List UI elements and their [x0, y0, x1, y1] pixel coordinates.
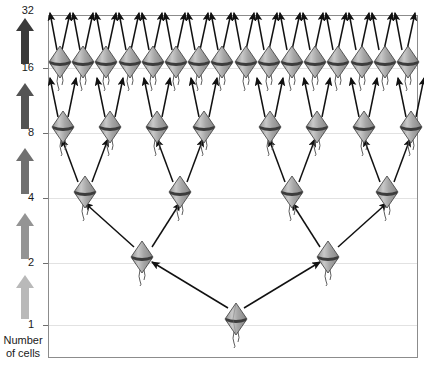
cell-gen16 [209, 45, 235, 91]
cell-gen16 [163, 45, 189, 91]
arrow-head-icon [16, 18, 34, 31]
gradient-arrow-3 [16, 148, 34, 194]
arrow-shaft [21, 31, 29, 64]
gridline-4 [49, 198, 417, 199]
tick-label-32: 32 [0, 5, 34, 16]
gradient-arrow-2 [16, 213, 34, 259]
cell-gen16 [70, 45, 96, 91]
cell-gen16 [279, 45, 305, 91]
arrow-shaft [21, 288, 29, 319]
gradient-arrow-4 [16, 83, 34, 129]
cell-gen2 [129, 240, 155, 286]
cell-gen8 [257, 110, 283, 156]
cell-gen16 [395, 45, 421, 91]
cell-gen16 [349, 45, 375, 91]
arrow-head-icon [16, 275, 34, 288]
cell-gen1 [223, 302, 249, 348]
cell-gen8 [398, 110, 424, 156]
cell-gen16 [372, 45, 398, 91]
gridline-2 [49, 263, 417, 264]
cell-division-figure: 32 16 8 4 2 1 Number of cells [0, 0, 424, 372]
arrow-head-icon [16, 213, 34, 226]
cell-gen4 [279, 175, 305, 221]
cell-gen8 [191, 110, 217, 156]
cell-gen16 [93, 45, 119, 91]
cell-gen16 [186, 45, 212, 91]
gradient-arrow-1 [16, 275, 34, 319]
cell-gen8 [351, 110, 377, 156]
arrow-head-icon [16, 83, 34, 96]
cell-gen2 [315, 240, 341, 286]
cell-gen4 [374, 175, 400, 221]
tick-label-1: 1 [0, 319, 34, 330]
cell-gen16 [47, 45, 73, 91]
cell-gen8 [304, 110, 330, 156]
arrow-head-icon [16, 148, 34, 161]
cell-gen8 [97, 110, 123, 156]
cell-gen8 [144, 110, 170, 156]
arrow-shaft [21, 161, 29, 194]
cell-gen16 [140, 45, 166, 91]
axis-caption-line2: of cells [0, 347, 46, 359]
cell-gen16 [325, 45, 351, 91]
cell-gen8 [50, 110, 76, 156]
cell-gen4 [72, 175, 98, 221]
cell-gen16 [302, 45, 328, 91]
cell-gen16 [233, 45, 259, 91]
cell-gen16 [117, 45, 143, 91]
arrow-shaft [21, 226, 29, 259]
arrow-shaft [21, 96, 29, 129]
cell-gen16 [256, 45, 282, 91]
gradient-arrow-5 [16, 18, 34, 64]
axis-caption-line1: Number [0, 334, 46, 346]
cell-gen4 [167, 175, 193, 221]
